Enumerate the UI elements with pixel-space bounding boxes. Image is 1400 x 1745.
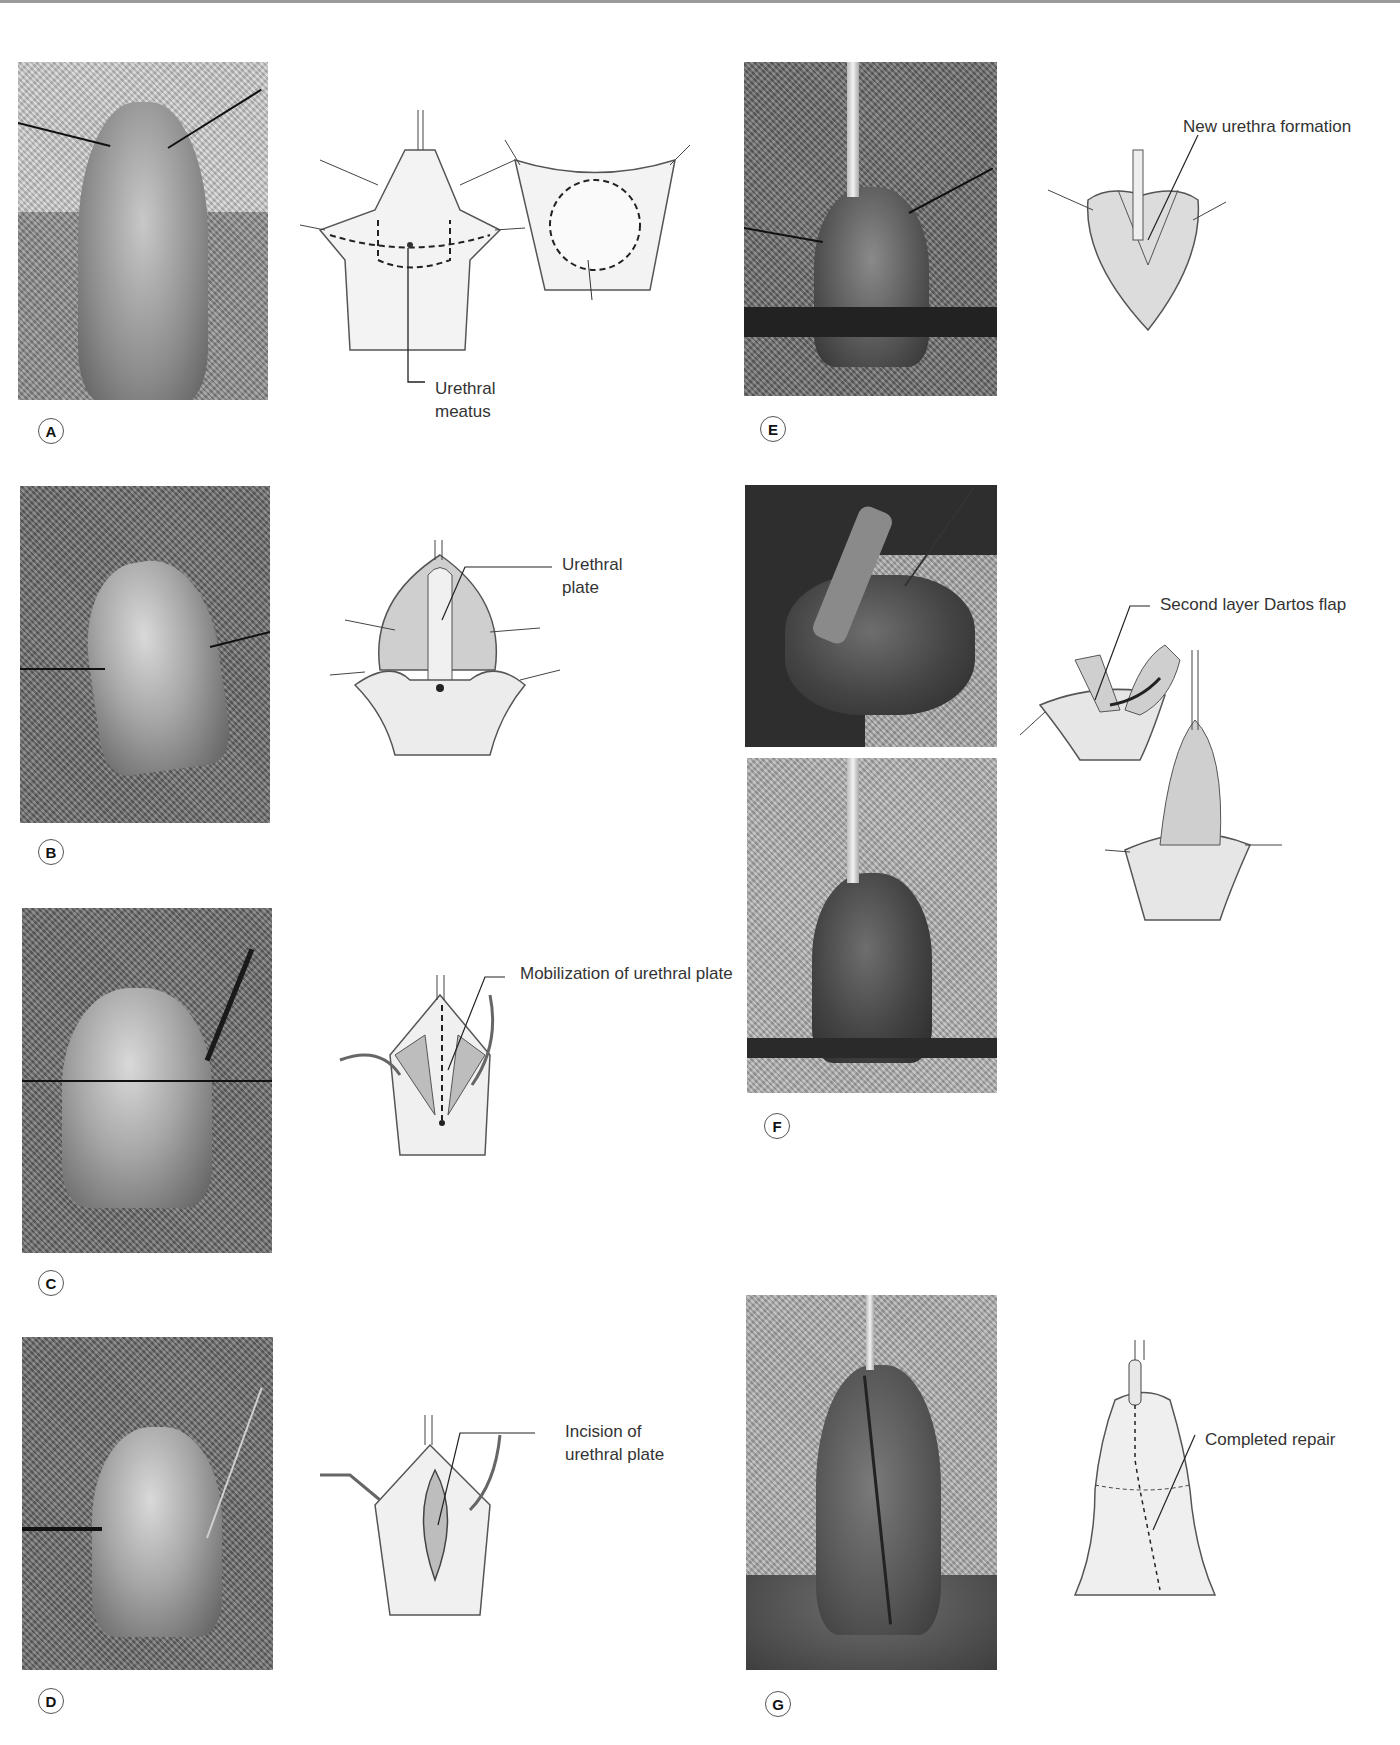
panel-e-callout: New urethra formation [1183, 115, 1351, 138]
panel-b-photo [20, 486, 270, 823]
panel-d-drawing [320, 1415, 540, 1625]
panel-b-label: B [38, 839, 64, 865]
panel-g-callout: Completed repair [1205, 1428, 1335, 1451]
panel-c-drawing [340, 975, 540, 1175]
panel-c-label: C [38, 1270, 64, 1296]
panel-g-label: G [765, 1691, 791, 1717]
panel-a-drawing-flap [500, 140, 690, 305]
panel-b-callout: Urethral plate [562, 553, 622, 599]
panel-f-callout: Second layer Dartos flap [1160, 593, 1346, 616]
panel-g-photo [746, 1295, 997, 1670]
panel-b-drawing [330, 540, 570, 780]
panel-a-callout: Urethral meatus [435, 377, 495, 423]
panel-d-label: D [38, 1688, 64, 1714]
panel-c-callout: Mobilization of urethral plate [520, 962, 733, 985]
panel-a-label: A [38, 418, 64, 444]
panel-d-photo [22, 1337, 273, 1670]
panel-e-label: E [760, 416, 786, 442]
panel-f-drawing [1020, 600, 1330, 930]
panel-f-label: F [764, 1113, 790, 1139]
panel-a-drawing-meatus [300, 110, 530, 370]
panel-f-photo-bottom [747, 758, 997, 1093]
panel-g-drawing [1075, 1340, 1215, 1625]
panel-c-photo [22, 908, 272, 1253]
panel-e-photo [744, 62, 997, 396]
top-border [0, 0, 1400, 3]
panel-e-drawing [1048, 130, 1228, 340]
panel-d-callout: Incision of urethral plate [565, 1420, 664, 1466]
panel-f-photo-top [745, 485, 997, 747]
panel-a-photo [18, 62, 268, 400]
